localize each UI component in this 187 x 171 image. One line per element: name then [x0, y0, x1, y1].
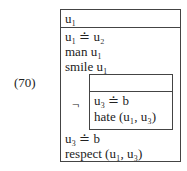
condition: man u₁	[65, 44, 102, 60]
condition: smile u₁	[65, 59, 107, 75]
universe-referents: u₁	[65, 11, 76, 27]
sub-condition: hate (u₁, u₃)	[94, 109, 156, 125]
drs-box: u₁ u₁ ≐ u₂ man u₁ smile u₁ ¬ u₃ ≐ b hate…	[60, 9, 181, 162]
example-number: (70)	[14, 75, 36, 91]
sub-condition: u₃ ≐ b	[94, 93, 129, 109]
sub-drs-box: u₃ ≐ b hate (u₁, u₃)	[89, 74, 173, 130]
condition: u₃ ≐ b	[65, 131, 100, 147]
drs-universe: u₁	[61, 10, 180, 28]
condition: u₁ ≐ u₂	[65, 29, 104, 45]
sub-drs-universe	[90, 75, 172, 92]
negation-symbol: ¬	[72, 97, 79, 113]
condition: respect (u₁, u₃)	[65, 146, 142, 162]
